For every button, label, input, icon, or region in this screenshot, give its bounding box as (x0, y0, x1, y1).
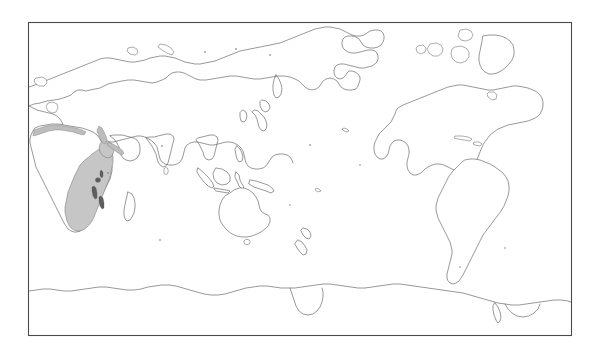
map-canvas (0, 0, 594, 355)
tasmania-island (244, 239, 250, 244)
islet-dot (309, 144, 311, 146)
islet-dot (359, 164, 360, 165)
sri-lanka-island (164, 167, 168, 174)
islet-dot (107, 172, 108, 173)
ellesmere-island (458, 29, 473, 41)
islet-dot (269, 54, 271, 56)
islet-dot (504, 247, 505, 248)
islet-dot (161, 145, 163, 147)
islet-dot (159, 239, 161, 241)
lake-victoria (95, 178, 100, 183)
islet-dot (459, 266, 460, 267)
islet-dot (289, 204, 290, 205)
world-distribution-map-figure (0, 0, 594, 355)
islet-dot (235, 48, 237, 50)
islet-dot (204, 51, 206, 53)
